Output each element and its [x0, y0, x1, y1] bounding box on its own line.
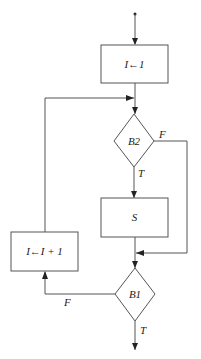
node-b2: B2 — [114, 114, 154, 167]
edge-b1-false-label: F — [63, 296, 71, 308]
arrow-head-icon — [126, 95, 134, 101]
edge-b1-false — [45, 272, 115, 294]
node-inc-label: I←I + 1 — [25, 245, 63, 257]
arrow-head-icon — [132, 107, 138, 114]
arrow-head-icon — [132, 343, 138, 350]
node-init-label: I←1 — [123, 58, 144, 70]
node-b1: B1 — [115, 268, 155, 321]
node-b2-label: B2 — [128, 135, 141, 147]
arrow-head-icon — [136, 250, 144, 256]
arrow-head-icon — [42, 271, 48, 279]
arrow-head-icon — [132, 38, 138, 45]
flowchart: I←1 B2 F T S I←I + 1 B1 F T — [0, 0, 201, 359]
node-s-label: S — [132, 211, 138, 223]
arrow-head-icon — [131, 191, 137, 198]
node-b1-label: B1 — [129, 288, 141, 300]
edge-b2-false-label: F — [158, 128, 166, 140]
edge-b2-true-label: T — [138, 167, 145, 179]
arrow-head-icon — [132, 261, 138, 268]
node-s: S — [101, 198, 168, 237]
node-init: I←1 — [101, 45, 168, 83]
edge-b1-true-label: T — [140, 324, 147, 336]
node-inc: I←I + 1 — [11, 232, 78, 271]
